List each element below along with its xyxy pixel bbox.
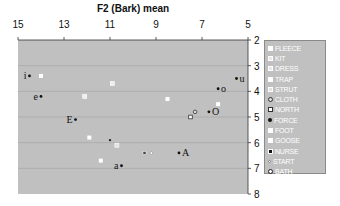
- y-tick-label: 8: [254, 189, 260, 200]
- vowel-dot: [178, 152, 181, 155]
- y-tick-label: 3: [254, 61, 260, 72]
- legend-label: DRESS: [275, 65, 298, 72]
- point-marker: [83, 94, 87, 98]
- legend-marker-icon: [268, 160, 271, 163]
- vowel-dot: [120, 164, 123, 167]
- chart-legend: FLEECEKITDRESSTRAPSTRUTCLOTHNORTHFORCEFO…: [264, 40, 326, 174]
- vowel-dot: [235, 77, 238, 80]
- vowel-label: i: [24, 70, 27, 81]
- legend-marker-icon: [268, 66, 273, 71]
- legend-marker-icon: [268, 149, 273, 154]
- x-tick-label: 13: [58, 19, 70, 30]
- y-tick-label: 4: [254, 86, 260, 97]
- legend-label: GOOSE: [275, 137, 300, 144]
- point-marker: [39, 74, 43, 78]
- vowel-label: o: [221, 83, 226, 94]
- point-marker: [150, 152, 153, 155]
- vowel-label: E: [66, 114, 72, 125]
- y-tick-label: 2: [254, 35, 260, 46]
- vowel-dot: [40, 95, 43, 98]
- legend-item: DRESS: [268, 64, 325, 74]
- legend-marker-icon: [268, 97, 273, 102]
- legend-label: FOOT: [275, 127, 294, 134]
- vowel-dot: [217, 87, 220, 90]
- legend-item: TRAP: [268, 74, 325, 84]
- point-marker: [115, 143, 119, 147]
- vowel-dot: [208, 110, 211, 113]
- legend-marker-icon: [268, 87, 273, 92]
- legend-label: FORCE: [274, 117, 298, 124]
- point-marker: [110, 82, 114, 86]
- legend-item: STRUT: [268, 84, 325, 94]
- legend-marker-icon: [268, 138, 273, 143]
- legend-item: GOOSE: [268, 136, 325, 146]
- legend-label: CLOTH: [275, 96, 298, 103]
- legend-marker-icon: [268, 107, 273, 112]
- y-tick-label: 7: [254, 163, 260, 174]
- legend-item: BATH: [268, 167, 325, 177]
- legend-item: FOOT: [268, 125, 325, 135]
- legend-marker-icon: [268, 46, 273, 51]
- legend-item: START: [268, 156, 325, 166]
- legend-label: TRAP: [275, 76, 293, 83]
- vowel-label: e: [34, 91, 39, 102]
- legend-label: START: [273, 158, 294, 165]
- vowel-dot: [28, 75, 31, 78]
- legend-marker-icon: [268, 56, 273, 61]
- vowel-label: u: [240, 73, 245, 84]
- x-axis: 151311975: [12, 19, 251, 40]
- legend-label: NURSE: [275, 148, 299, 155]
- x-axis-title: F2 (Bark) mean: [97, 3, 169, 14]
- x-tick-label: 9: [153, 19, 159, 30]
- point-marker: [189, 115, 193, 119]
- legend-item: FORCE: [268, 115, 325, 125]
- x-tick-label: 7: [199, 19, 205, 30]
- legend-item: NURSE: [268, 146, 325, 156]
- vowel-label: A: [182, 147, 190, 158]
- vowel-label: O: [212, 106, 219, 117]
- legend-item: FLEECE: [268, 43, 325, 53]
- point-marker: [143, 151, 146, 154]
- x-tick-label: 11: [105, 19, 116, 30]
- point-marker: [166, 97, 170, 101]
- x-tick-label: 5: [245, 19, 251, 30]
- legend-label: FLEECE: [275, 45, 301, 52]
- point-marker: [109, 139, 111, 141]
- legend-item: CLOTH: [268, 94, 325, 104]
- legend-marker-icon: [268, 118, 272, 122]
- y-tick-label: 6: [254, 138, 260, 149]
- legend-marker-icon: [268, 128, 273, 133]
- legend-label: STRUT: [275, 86, 297, 93]
- point-marker: [99, 159, 103, 163]
- legend-item: NORTH: [268, 105, 325, 115]
- legend-marker-icon: [268, 77, 273, 82]
- legend-label: KIT: [275, 55, 285, 62]
- legend-label: NORTH: [275, 106, 299, 113]
- y-axis: 2345678: [248, 35, 260, 200]
- y-tick-label: 5: [254, 112, 260, 123]
- point-marker: [193, 110, 197, 114]
- x-tick-label: 15: [12, 19, 24, 30]
- vowel-dot: [74, 118, 77, 121]
- legend-label: BATH: [275, 168, 292, 175]
- legend-marker-icon: [268, 169, 273, 174]
- legend-item: KIT: [268, 53, 325, 63]
- point-marker: [87, 136, 91, 140]
- vowel-label: a: [114, 160, 119, 171]
